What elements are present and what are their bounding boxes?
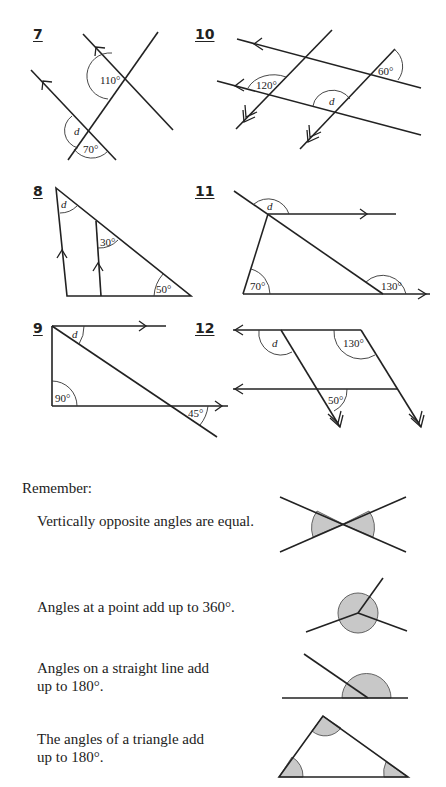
rule-straight-line: Angles on a straight line add up to 180°…	[37, 659, 209, 695]
angle-label-130: 130°	[381, 280, 402, 292]
diagram-vertically-opposite	[280, 497, 406, 552]
angle-label-60: 60°	[378, 65, 393, 77]
angle-label-90: 90°	[55, 392, 70, 404]
diagram-angles-at-point	[306, 578, 407, 633]
rule-line: up to 180°.	[37, 677, 209, 695]
rule-line: up to 180°.	[37, 748, 204, 766]
rule-line: Angles at a point add up to 360°.	[37, 598, 235, 616]
rule-angles-at-point: Angles at a point add up to 360°.	[37, 598, 235, 616]
angle-label-120: 120°	[256, 79, 277, 91]
diagram-q12	[233, 325, 424, 427]
rule-line: Vertically opposite angles are equal.	[37, 512, 254, 530]
unknown-angle-d-q12: d	[272, 337, 278, 349]
angle-label-30: 30°	[100, 236, 115, 248]
rule-line: Angles on a straight line add	[37, 659, 209, 677]
rule-triangle: The angles of a triangle add up to 180°.	[37, 730, 204, 766]
unknown-angle-d-q9: d	[72, 328, 78, 340]
diagram-triangle	[279, 716, 408, 777]
unknown-angle-d-q7: d	[74, 125, 80, 137]
diagram-q8	[56, 188, 191, 296]
diagram-q7	[31, 32, 173, 160]
unknown-angle-d-q10: d	[329, 95, 335, 107]
angle-label-130: 130°	[343, 337, 364, 349]
angle-label-45: 45°	[188, 407, 203, 419]
remember-heading: Remember:	[22, 479, 92, 497]
unknown-angle-d-q11: d	[267, 200, 273, 212]
unknown-angle-d-q8: d	[61, 198, 67, 210]
angle-label-110: 110°	[100, 74, 121, 86]
diagram-q10	[217, 30, 421, 149]
rule-vertically-opposite: Vertically opposite angles are equal.	[37, 512, 254, 530]
angle-label-70: 70°	[250, 280, 265, 292]
angle-label-50: 50°	[328, 394, 343, 406]
angle-label-70: 70°	[83, 143, 98, 155]
angle-label-50: 50°	[156, 283, 171, 295]
rule-line: The angles of a triangle add	[37, 730, 204, 748]
diagram-q9	[52, 321, 228, 437]
diagram-straight-line	[282, 654, 408, 698]
